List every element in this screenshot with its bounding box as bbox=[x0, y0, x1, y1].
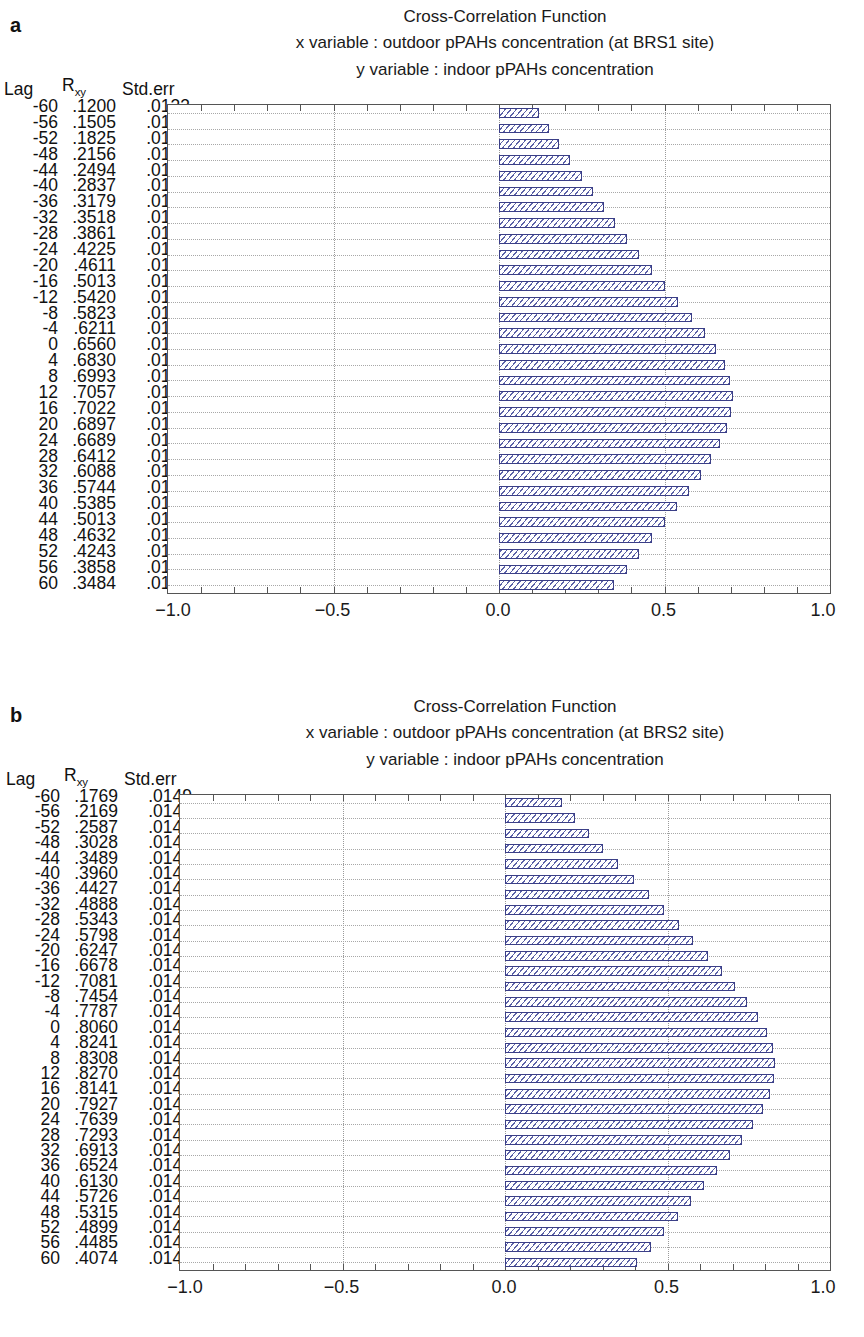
axis-tick bbox=[408, 1264, 409, 1270]
correlation-bar bbox=[499, 313, 692, 323]
rxy-base: R bbox=[62, 75, 75, 95]
panel-b-plot-area bbox=[179, 794, 831, 1271]
correlation-bar bbox=[505, 1258, 637, 1268]
x-axis-tick-label: 0.0 bbox=[491, 1277, 516, 1298]
axis-tick bbox=[440, 1264, 441, 1270]
correlation-bar bbox=[499, 171, 582, 181]
correlation-bar bbox=[505, 1212, 678, 1222]
panel-a: a Cross-Correlation Function x variable … bbox=[0, 0, 864, 660]
x-axis-tick-label: 0.5 bbox=[651, 600, 676, 621]
axis-tick bbox=[213, 1264, 214, 1270]
panel-b: b Cross-Correlation Function x variable … bbox=[0, 690, 864, 1337]
axis-tick bbox=[367, 587, 368, 593]
correlation-bar bbox=[505, 997, 747, 1007]
correlation-bar bbox=[505, 1166, 717, 1176]
correlation-bar bbox=[499, 202, 604, 212]
panel-b-y-variable: y variable : indoor pPAHs concentration bbox=[185, 747, 845, 773]
cell-rxy: .3484 bbox=[58, 575, 116, 591]
correlation-bar bbox=[499, 328, 705, 338]
x-axis-tick-label: −0.5 bbox=[324, 1277, 360, 1298]
axis-tick bbox=[700, 1264, 701, 1270]
axis-tick bbox=[665, 105, 666, 111]
axis-tick bbox=[733, 795, 734, 801]
x-axis-tick-label: 1.0 bbox=[810, 600, 835, 621]
axis-tick bbox=[267, 587, 268, 593]
cell-lag: 60 bbox=[6, 1250, 60, 1265]
correlation-bar bbox=[505, 951, 708, 961]
panel-b-title: Cross-Correlation Function bbox=[185, 694, 845, 720]
axis-tick bbox=[698, 105, 699, 111]
column-header-rxy: Rxy bbox=[60, 767, 118, 788]
panel-a-title: Cross-Correlation Function bbox=[175, 4, 835, 30]
axis-tick bbox=[343, 1264, 344, 1270]
correlation-bar bbox=[505, 1043, 773, 1053]
correlation-bar bbox=[505, 982, 735, 992]
correlation-bar bbox=[505, 1012, 758, 1022]
axis-tick bbox=[367, 105, 368, 111]
axis-tick bbox=[201, 587, 202, 593]
axis-tick bbox=[798, 795, 799, 801]
correlation-bar bbox=[505, 1196, 691, 1206]
axis-tick bbox=[310, 1264, 311, 1270]
panel-b-titles: Cross-Correlation Function x variable : … bbox=[185, 694, 845, 773]
correlation-bar bbox=[499, 470, 701, 480]
axis-tick bbox=[631, 587, 632, 593]
correlation-bar bbox=[499, 124, 549, 134]
correlation-bar bbox=[499, 360, 725, 370]
axis-tick bbox=[375, 1264, 376, 1270]
correlation-bar bbox=[505, 1135, 742, 1145]
correlation-bar bbox=[499, 391, 733, 401]
correlation-bar bbox=[499, 250, 639, 260]
correlation-bar bbox=[499, 517, 665, 527]
column-header-rxy: Rxy bbox=[58, 77, 116, 98]
correlation-bar bbox=[505, 890, 649, 900]
axis-tick bbox=[598, 105, 599, 111]
axis-tick bbox=[400, 105, 401, 111]
axis-tick bbox=[798, 1264, 799, 1270]
axis-tick bbox=[731, 105, 732, 111]
panel-a-lag-table: Lag Rxy Std.err -60.1200.0133-56.1505.01… bbox=[4, 72, 190, 591]
axis-tick bbox=[245, 1264, 246, 1270]
axis-tick bbox=[234, 587, 235, 593]
axis-tick bbox=[698, 587, 699, 593]
axis-tick bbox=[733, 1264, 734, 1270]
axis-tick bbox=[245, 795, 246, 801]
correlation-bar bbox=[505, 798, 562, 808]
correlation-bar bbox=[505, 1104, 763, 1114]
correlation-bar bbox=[505, 1120, 753, 1130]
axis-tick bbox=[797, 587, 798, 593]
correlation-bar bbox=[505, 1058, 775, 1068]
panel-letter-a: a bbox=[10, 14, 21, 37]
axis-tick bbox=[310, 795, 311, 801]
axis-tick bbox=[466, 105, 467, 111]
axis-tick bbox=[433, 587, 434, 593]
axis-tick bbox=[731, 587, 732, 593]
x-axis-tick-label: 0.0 bbox=[485, 600, 510, 621]
axis-tick bbox=[473, 795, 474, 801]
panel-b-x-variable: x variable : outdoor pPAHs concentration… bbox=[185, 720, 845, 746]
axis-tick bbox=[400, 587, 401, 593]
correlation-bar bbox=[505, 844, 603, 854]
axis-tick bbox=[408, 795, 409, 801]
panel-a-table-rows: -60.1200.0133-56.1505.0133-52.1825.0133-… bbox=[4, 98, 190, 591]
correlation-bar bbox=[499, 297, 678, 307]
panel-letter-b: b bbox=[10, 704, 22, 727]
correlation-bar bbox=[499, 344, 716, 354]
axis-tick bbox=[565, 105, 566, 111]
panel-a-y-variable: y variable : indoor pPAHs concentration bbox=[175, 57, 835, 83]
correlation-bar bbox=[499, 580, 614, 590]
axis-tick bbox=[334, 587, 335, 593]
correlation-bar bbox=[505, 920, 679, 930]
axis-tick bbox=[765, 1264, 766, 1270]
axis-tick bbox=[300, 105, 301, 111]
correlation-bar bbox=[499, 502, 677, 512]
panel-b-table-header: Lag Rxy Std.err bbox=[6, 762, 192, 788]
correlation-bar bbox=[499, 454, 711, 464]
axis-tick bbox=[440, 795, 441, 801]
correlation-bar bbox=[499, 533, 652, 543]
axis-tick bbox=[466, 587, 467, 593]
axis-tick bbox=[473, 1264, 474, 1270]
panel-b-table-rows: -60.1769.0149-56.2169.0148-52.2587.0148-… bbox=[6, 788, 192, 1265]
correlation-bar bbox=[499, 486, 689, 496]
axis-tick bbox=[797, 105, 798, 111]
